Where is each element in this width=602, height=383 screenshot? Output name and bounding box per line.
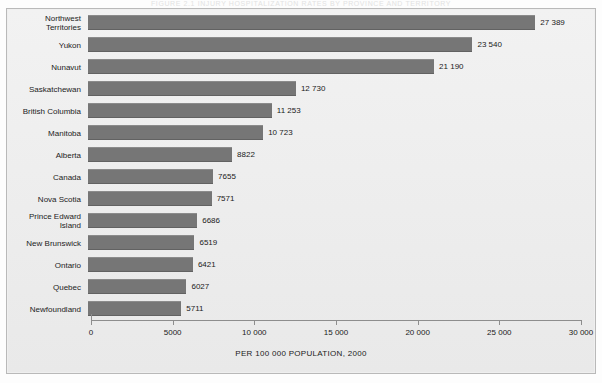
bar-category-label: Yukon <box>6 41 88 50</box>
bar-value-label: 6027 <box>191 282 209 291</box>
bar-track: 5711 <box>88 298 596 320</box>
bar-category-label: Quebec <box>6 283 88 292</box>
bar-track: 21 190 <box>88 56 596 78</box>
bar-row: British Columbia11 253 <box>6 100 596 122</box>
x-axis-tick-label: 20 000 <box>405 328 429 337</box>
bar-track: 7571 <box>88 188 596 210</box>
x-axis-title: PER 100 000 POPULATION, 2000 <box>6 349 596 358</box>
x-axis-tick-label: 10 000 <box>242 328 266 337</box>
x-axis-tick-label: 15 000 <box>324 328 348 337</box>
bar <box>88 147 232 162</box>
x-axis-tick-label: 5000 <box>164 328 182 337</box>
bar-value-label: 6686 <box>202 216 220 225</box>
bar-category-label: Saskatchewan <box>6 85 88 94</box>
bar <box>88 59 434 74</box>
bar-rows: Northwest Territories27 389Yukon23 540Nu… <box>6 12 596 320</box>
bar-row: Newfoundland5711 <box>6 298 596 320</box>
bar-category-label: Northwest Territories <box>6 14 88 32</box>
x-axis-tick <box>254 320 255 325</box>
bar <box>88 257 193 272</box>
bar <box>88 301 181 316</box>
bar-category-label: Nova Scotia <box>6 195 88 204</box>
bar-track: 8822 <box>88 144 596 166</box>
bar-chart: Northwest Territories27 389Yukon23 540Nu… <box>6 8 596 374</box>
bar-row: Canada7655 <box>6 166 596 188</box>
bar <box>88 37 472 52</box>
bar-value-label: 5711 <box>186 304 203 313</box>
bar-track: 6027 <box>88 276 596 298</box>
bar-category-label: Prince Edward Island <box>6 212 88 230</box>
bar-value-label: 11 253 <box>277 106 301 115</box>
bar-row: Prince Edward Island6686 <box>6 210 596 232</box>
bar-value-label: 10 723 <box>268 128 292 137</box>
bar <box>88 15 535 30</box>
bar <box>88 125 263 140</box>
bar-category-label: Newfoundland <box>6 305 88 314</box>
x-axis-tick <box>499 320 500 325</box>
bar-row: Saskatchewan12 730 <box>6 78 596 100</box>
bar-category-label: Alberta <box>6 151 88 160</box>
bar-value-label: 8822 <box>237 150 255 159</box>
bar-track: 27 389 <box>88 12 596 34</box>
bar <box>88 235 194 250</box>
bar-track: 23 540 <box>88 34 596 56</box>
bar-value-label: 6421 <box>198 260 216 269</box>
x-axis-tick <box>336 320 337 325</box>
bar-category-label: Canada <box>6 173 88 182</box>
bar-track: 6519 <box>88 232 596 254</box>
x-axis-tick <box>418 320 419 325</box>
bar <box>88 213 197 228</box>
bar-track: 6421 <box>88 254 596 276</box>
bar-row: Ontario6421 <box>6 254 596 276</box>
bar <box>88 103 272 118</box>
bar-row: Yukon23 540 <box>6 34 596 56</box>
x-axis-tick <box>173 320 174 325</box>
bar-value-label: 12 730 <box>301 84 325 93</box>
bar <box>88 169 213 184</box>
bar-track: 6686 <box>88 210 596 232</box>
x-axis-tick-label: 25 000 <box>487 328 511 337</box>
bar-category-label: New Brunswick <box>6 239 88 248</box>
x-axis-tick <box>581 320 582 325</box>
bar <box>88 279 186 294</box>
x-axis-tick-label: 0 <box>89 328 93 337</box>
bar-row: Northwest Territories27 389 <box>6 12 596 34</box>
bar-row: Manitoba10 723 <box>6 122 596 144</box>
bar-value-label: 23 540 <box>477 40 501 49</box>
figure-page: FIGURE 2.1 INJURY HOSPITALIZATION RATES … <box>0 0 602 383</box>
x-axis-tick-label: 30 000 <box>569 328 593 337</box>
bar-value-label: 21 190 <box>439 62 463 71</box>
bar-category-label: British Columbia <box>6 107 88 116</box>
bar-value-label: 27 389 <box>540 18 564 27</box>
bar-track: 11 253 <box>88 100 596 122</box>
cropped-figure-title: FIGURE 2.1 INJURY HOSPITALIZATION RATES … <box>0 0 602 6</box>
bar-category-label: Nunavut <box>6 63 88 72</box>
bar-track: 10 723 <box>88 122 596 144</box>
bar-track: 7655 <box>88 166 596 188</box>
x-axis-tick <box>91 320 92 325</box>
bar-value-label: 7655 <box>218 172 236 181</box>
bar-row: New Brunswick6519 <box>6 232 596 254</box>
bar-value-label: 6519 <box>199 238 217 247</box>
bar-value-label: 7571 <box>217 194 235 203</box>
bar <box>88 191 212 206</box>
bar-category-label: Ontario <box>6 261 88 270</box>
bar-row: Nunavut21 190 <box>6 56 596 78</box>
bar-row: Quebec6027 <box>6 276 596 298</box>
bar-row: Alberta8822 <box>6 144 596 166</box>
bar <box>88 81 296 96</box>
bar-row: Nova Scotia7571 <box>6 188 596 210</box>
bar-track: 12 730 <box>88 78 596 100</box>
bar-category-label: Manitoba <box>6 129 88 138</box>
